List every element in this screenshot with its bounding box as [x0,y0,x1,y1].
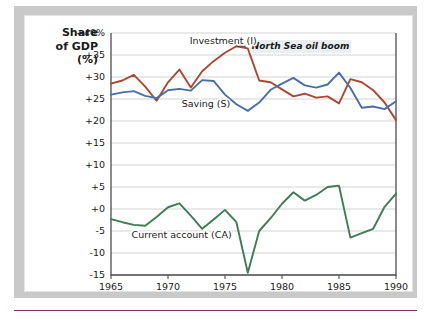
ytick-label-0: +0 [91,203,105,214]
series-label-s: Saving (S) [182,98,231,109]
xtick-label-1985: 1985 [327,281,351,292]
xtick-label-1990: 1990 [384,281,408,292]
ytick-label-30: +30 [85,71,105,82]
figure-root: Share of GDP (%) +40%+35+30+25+20+15+10+… [0,0,431,328]
series-label-i: Investment (I) [190,35,257,46]
ytick-label-20: +20 [85,115,105,126]
xtick-labels-group: 196519701975198019851990 [99,281,408,292]
xtick-label-1965: 1965 [99,281,123,292]
ytick-label-35: +35 [85,49,105,60]
xtick-label-1975: 1975 [213,281,237,292]
series-line-s [111,73,396,111]
ytick-label-15: +15 [85,137,105,148]
ytick-label-10: +10 [85,159,105,170]
ytick-labels-group: +40%+35+30+25+20+15+10+5+0-5-10-15 [76,27,105,280]
axis-lines-group [111,33,396,279]
line-chart: +40%+35+30+25+20+15+10+5+0-5-10-15 19651… [0,0,431,328]
series-line-i [111,46,396,120]
series-label-ca: Current account (CA) [132,229,232,240]
ytick-label-25: +25 [85,93,105,104]
ytick-label-40: +40% [76,27,105,38]
annotation-label: North Sea oil boom [252,41,349,51]
xtick-label-1970: 1970 [156,281,180,292]
ytick-label--15: -15 [89,269,105,280]
xtick-label-1980: 1980 [270,281,294,292]
ytick-label-5: +5 [91,181,105,192]
ytick-label--10: -10 [89,247,105,258]
ytick-label--5: -5 [96,225,105,236]
